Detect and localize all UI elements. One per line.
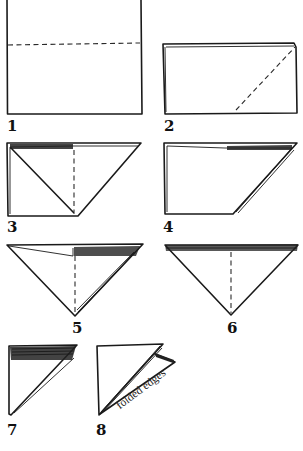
step-number-5: 5 (72, 321, 82, 336)
step-number-1: 1 (7, 119, 17, 134)
step-number-6: 6 (227, 321, 237, 336)
figure-3 (7, 143, 141, 216)
step-number-2: 2 (164, 119, 174, 134)
step-number-7: 7 (7, 423, 17, 438)
step-number-8: 8 (96, 423, 106, 438)
figure-4 (164, 143, 297, 214)
figure-6 (165, 244, 298, 315)
figure-7 (9, 345, 77, 415)
figure-1 (7, 0, 142, 114)
step-number-4: 4 (163, 220, 173, 235)
figure-8 (97, 344, 175, 415)
figure-5 (7, 244, 143, 316)
figure-2 (163, 43, 297, 114)
step-number-3: 3 (7, 220, 17, 235)
